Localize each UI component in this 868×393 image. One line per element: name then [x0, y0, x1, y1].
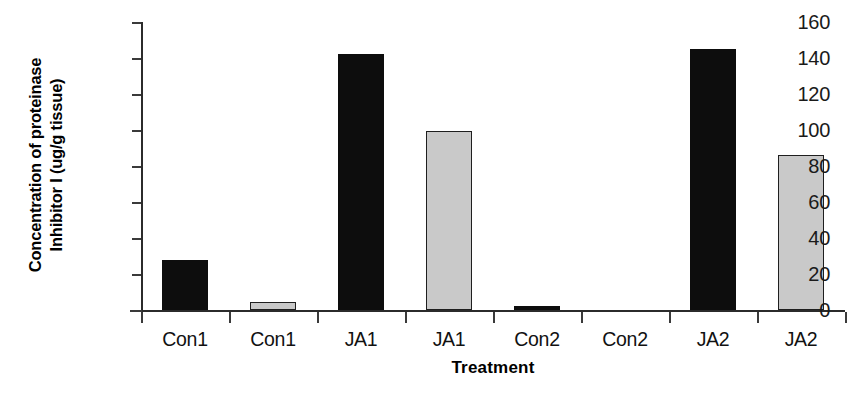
- x-axis-category-label: Con2: [514, 328, 559, 351]
- x-tick: [669, 312, 671, 323]
- y-tick: [132, 238, 141, 240]
- y-tick: [132, 58, 141, 60]
- x-axis-category-label: JA1: [433, 328, 466, 351]
- y-tick: [132, 130, 141, 132]
- x-axis-category-label: Con2: [602, 328, 647, 351]
- y-tick: [132, 94, 141, 96]
- y-tick: [132, 166, 141, 168]
- bars-layer: [141, 22, 845, 310]
- x-axis-category-label: JA2: [697, 328, 730, 351]
- bar: [690, 49, 736, 310]
- y-tick-label: 80: [808, 155, 830, 178]
- y-tick-label: 0: [819, 299, 830, 322]
- bar-chart-figure: Concentration of proteinase Inhibitor I …: [0, 0, 868, 393]
- bar: [514, 306, 560, 311]
- y-axis-title-line2: Inhibitor I (ug/g tissue): [46, 58, 67, 273]
- bar: [426, 131, 472, 310]
- y-tick: [132, 274, 141, 276]
- y-tick-label: 60: [808, 191, 830, 214]
- bar: [162, 260, 208, 310]
- x-axis-category-label: JA1: [345, 328, 378, 351]
- x-tick: [757, 312, 759, 323]
- y-tick-label: 140: [798, 47, 830, 70]
- bar: [250, 302, 296, 310]
- y-tick-label: 120: [798, 83, 830, 106]
- y-tick-label: 20: [808, 263, 830, 286]
- x-axis-category-label: Con1: [250, 328, 295, 351]
- y-axis-title: Concentration of proteinase Inhibitor I …: [0, 0, 92, 330]
- y-tick-label: 100: [798, 119, 830, 142]
- x-tick: [229, 312, 231, 323]
- x-axis-category-label: JA2: [785, 328, 818, 351]
- x-tick: [845, 312, 847, 323]
- x-tick: [317, 312, 319, 323]
- y-tick-label: 40: [808, 227, 830, 250]
- y-tick: [132, 22, 141, 24]
- x-tick: [405, 312, 407, 323]
- x-tick: [581, 312, 583, 323]
- plot-area: 020406080100120140160 Con1Con1JA1JA1Con2…: [141, 22, 845, 310]
- bar: [338, 54, 384, 311]
- y-axis-title-line1: Concentration of proteinase: [25, 58, 46, 273]
- y-tick: [132, 202, 141, 204]
- x-axis-title: Treatment: [141, 358, 845, 378]
- y-tick-label: 160: [798, 11, 830, 34]
- x-tick: [493, 312, 495, 323]
- x-axis-category-label: Con1: [162, 328, 207, 351]
- x-tick: [141, 312, 143, 323]
